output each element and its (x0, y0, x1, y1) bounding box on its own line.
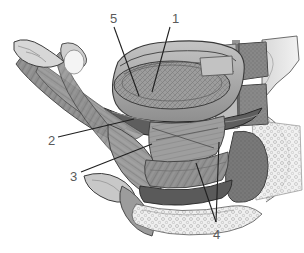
region-lower-spongy-bone (132, 204, 262, 235)
label-2: 2 (48, 134, 55, 147)
label-1: 1 (172, 12, 179, 25)
region-tongue-body (112, 41, 244, 124)
anatomy-illustration (0, 0, 304, 253)
label-5: 5 (110, 12, 117, 25)
label-4: 4 (213, 228, 220, 241)
label-3: 3 (70, 170, 77, 183)
anatomy-figure: 1 2 3 4 5 (0, 0, 304, 253)
